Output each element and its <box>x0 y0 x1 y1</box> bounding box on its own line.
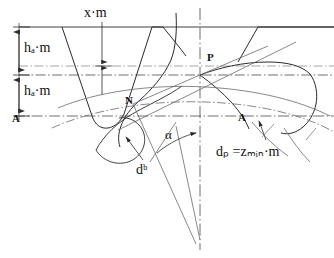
dimension-arrow-profile-shift <box>95 22 112 95</box>
db-leader <box>150 122 176 162</box>
label-base-diameter: dᵇ <box>136 163 147 177</box>
label-pitch-diameter: dₚ =zₘᵢₙ·m <box>216 145 279 159</box>
arrow-to-A-right <box>259 121 266 140</box>
curvature-arc-N <box>96 118 145 164</box>
diagram-canvas: x·m hₐ·m hₐ·m A N P A α dᵇ dₚ =zₘᵢₙ·m <box>0 0 334 258</box>
rack-tooth-profile <box>62 27 152 128</box>
base-circle-arc <box>58 86 330 116</box>
label-point-p: P <box>207 52 214 63</box>
label-point-n: N <box>125 95 133 106</box>
label-point-a-left: A <box>12 113 20 124</box>
label-pressure-angle: α <box>165 128 172 141</box>
label-addendum-lower: hₐ·m <box>24 84 50 98</box>
pressure-angle-arc <box>157 133 196 153</box>
arrow-to-N <box>126 137 143 160</box>
label-addendum-upper: hₐ·m <box>24 41 50 55</box>
gear-tooth-right-outline <box>200 62 317 134</box>
pitch-circle-arc <box>52 102 334 132</box>
rack-crest-far-right <box>238 27 334 62</box>
dp-leader <box>262 124 316 140</box>
label-point-a-right: A <box>238 112 246 123</box>
dimension-extension-left <box>13 23 30 120</box>
label-profile-shift: x·m <box>84 6 107 20</box>
rack-flank-secondary <box>163 27 186 56</box>
